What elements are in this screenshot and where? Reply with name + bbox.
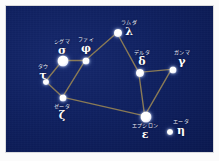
- star-greek-epsilon: ε: [132, 129, 158, 140]
- star-greek-lambda: λ: [121, 26, 137, 37]
- star-greek-eta: η: [173, 125, 189, 136]
- star-greek-zeta: ζ: [54, 110, 70, 121]
- star-labels-layer: タウτシグマσファイφゼータζラムダλデルタδガンマγエプシロンεエータη: [6, 6, 213, 152]
- sky-panel-frame: タウτシグマσファイφゼータζラムダλデルタδガンマγエプシロンεエータη: [5, 5, 214, 153]
- star-label-delta: デルタδ: [134, 50, 150, 67]
- constellation-figure: タウτシグマσファイφゼータζラムダλデルタδガンマγエプシロンεエータη: [0, 0, 219, 161]
- star-label-epsilon: エプシロンε: [132, 123, 158, 140]
- star-greek-tau: τ: [38, 70, 48, 81]
- star-label-lambda: ラムダλ: [121, 20, 137, 37]
- star-label-eta: エータη: [173, 119, 189, 136]
- star-label-gamma: ガンマγ: [174, 50, 190, 67]
- star-greek-phi: φ: [78, 43, 94, 54]
- star-greek-sigma: σ: [54, 45, 70, 56]
- star-greek-gamma: γ: [174, 56, 190, 67]
- figure-caption: [5, 154, 214, 161]
- star-label-zeta: ゼータζ: [54, 104, 70, 121]
- star-greek-delta: δ: [134, 56, 150, 67]
- star-label-tau: タウτ: [38, 64, 48, 81]
- star-label-phi: ファイφ: [78, 37, 94, 54]
- star-label-sigma: シグマσ: [54, 39, 70, 56]
